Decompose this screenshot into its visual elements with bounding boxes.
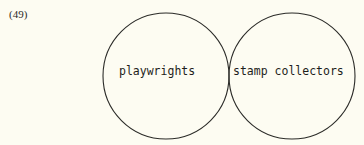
venn-label-right: stamp collectors <box>233 64 344 78</box>
figure-canvas: (49) playwrights stamp collectors <box>0 0 364 145</box>
venn-label-left: playwrights <box>119 64 195 78</box>
